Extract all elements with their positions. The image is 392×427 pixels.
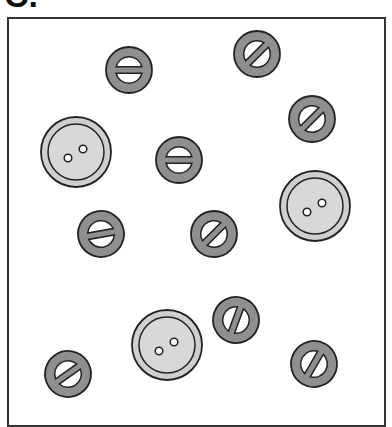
small-button-icon bbox=[156, 137, 202, 183]
small-button-icon bbox=[207, 291, 266, 350]
large-button-icon bbox=[280, 171, 350, 241]
small-button-icon bbox=[36, 342, 100, 406]
small-button-icon bbox=[224, 21, 289, 86]
small-button-icon bbox=[74, 207, 127, 260]
small-button-icon bbox=[283, 333, 346, 396]
small-button-icon bbox=[181, 201, 246, 266]
small-button-icon bbox=[106, 47, 152, 93]
large-button-icon bbox=[41, 117, 111, 187]
large-button-icon bbox=[132, 310, 202, 380]
small-button-icon bbox=[279, 86, 344, 151]
